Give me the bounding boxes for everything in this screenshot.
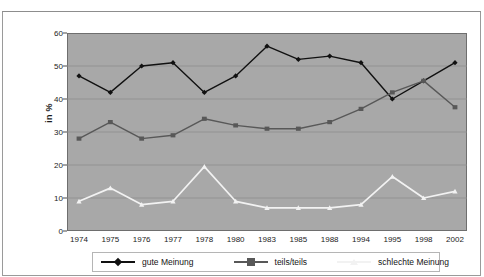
- y-tick-label: 0: [37, 227, 63, 236]
- chart-card: in % 0102030405060 197419751976197719781…: [3, 12, 480, 248]
- data-point: [421, 79, 426, 83]
- x-tick-label: 1988: [321, 235, 339, 244]
- data-point: [139, 137, 144, 141]
- series-canvas: [67, 33, 467, 231]
- x-tick-label: 1994: [352, 235, 370, 244]
- chart-figure: in % 0102030405060 197419751976197719781…: [0, 0, 484, 277]
- y-tick-mark: [63, 99, 67, 100]
- x-tick-label: 1995: [383, 235, 401, 244]
- x-tick-label: 1977: [164, 235, 182, 244]
- series-line: [79, 46, 455, 99]
- data-point: [296, 57, 301, 62]
- data-point: [108, 120, 113, 124]
- y-tick-mark: [63, 132, 67, 133]
- y-tick-label: 60: [37, 29, 63, 38]
- legend-item: gute Meinung: [101, 253, 194, 271]
- y-tick-label: 30: [37, 128, 63, 137]
- legend-item: teils/teils: [234, 253, 308, 271]
- y-tick-label: 50: [37, 62, 63, 71]
- data-point: [327, 54, 332, 59]
- y-tick-mark: [63, 165, 67, 166]
- data-point: [453, 105, 458, 109]
- x-tick-label: 2002: [446, 235, 464, 244]
- plot-wrapper: 0102030405060 19741975197619771978198019…: [67, 33, 467, 244]
- data-point: [390, 90, 395, 94]
- y-tick-mark: [63, 33, 67, 34]
- x-tick-label: 1985: [289, 235, 307, 244]
- y-tick-label: 10: [37, 194, 63, 203]
- data-point: [390, 174, 395, 179]
- series-line: [79, 167, 455, 208]
- data-point: [171, 133, 176, 137]
- data-point: [296, 127, 301, 131]
- data-point: [108, 186, 113, 191]
- x-tick-label: 1975: [101, 235, 119, 244]
- data-point: [76, 73, 81, 78]
- data-point: [327, 120, 332, 124]
- legend: gute Meinungteils/teilsschlechte Meinung: [92, 252, 440, 272]
- legend-label: gute Meinung: [142, 257, 194, 267]
- legend-item: schlechte Meinung: [337, 253, 449, 271]
- legend-swatch-diamond-icon: [101, 256, 135, 268]
- y-tick-label: 20: [37, 161, 63, 170]
- x-tick-label: 1978: [195, 235, 213, 244]
- x-tick-label: 1998: [415, 235, 433, 244]
- data-point: [233, 123, 238, 127]
- x-tick-label: 1983: [258, 235, 276, 244]
- y-tick-mark: [63, 231, 67, 232]
- legend-label: teils/teils: [275, 257, 308, 267]
- legend-swatch-triangle-icon: [337, 256, 371, 268]
- x-tick-label: 1974: [70, 235, 88, 244]
- legend-swatch-square-icon: [234, 256, 268, 268]
- data-point: [77, 137, 82, 141]
- y-tick-mark: [63, 198, 67, 199]
- data-point: [202, 117, 207, 121]
- y-tick-label: 40: [37, 95, 63, 104]
- y-tick-mark: [63, 66, 67, 67]
- data-point: [359, 107, 364, 111]
- data-point: [265, 127, 270, 131]
- x-tick-label: 1976: [133, 235, 151, 244]
- x-tick-label: 1980: [227, 235, 245, 244]
- legend-label: schlechte Meinung: [378, 257, 449, 267]
